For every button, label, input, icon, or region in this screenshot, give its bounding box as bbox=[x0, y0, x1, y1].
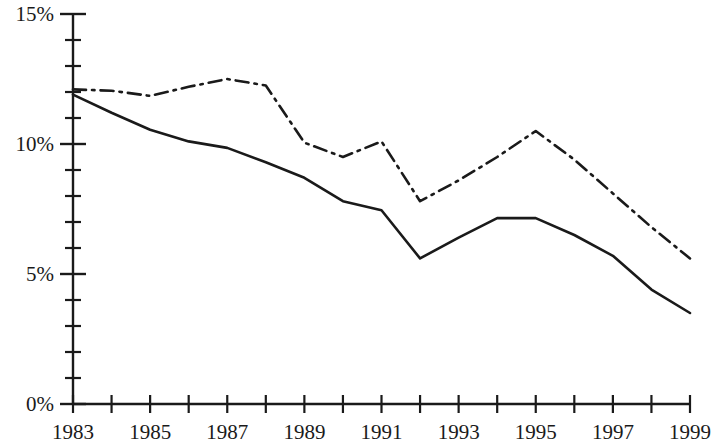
x-axis-tick-label: 1985 bbox=[129, 422, 171, 443]
line-chart: 0%5%10%15% 19831985198719891991199319951… bbox=[0, 0, 720, 446]
x-axis-tick-label: 1995 bbox=[515, 422, 557, 443]
x-axis-tick-label: 1999 bbox=[669, 422, 711, 443]
chart-series bbox=[73, 79, 690, 313]
x-axis-tick-label: 1997 bbox=[592, 422, 634, 443]
x-axis-tick-label: 1983 bbox=[52, 422, 94, 443]
x-axis-tick-label: 1993 bbox=[438, 422, 480, 443]
y-axis-tick-label: 0% bbox=[26, 394, 54, 415]
y-axis-tick-label: 5% bbox=[26, 264, 54, 285]
series-line-dash-dot-series bbox=[73, 79, 690, 258]
series-line-solid-series bbox=[73, 95, 690, 313]
x-axis-tick-label: 1987 bbox=[206, 422, 248, 443]
x-axis-tick-label: 1989 bbox=[283, 422, 325, 443]
y-axis-tick-label: 10% bbox=[16, 134, 55, 155]
y-axis-tick-label: 15% bbox=[16, 4, 55, 25]
chart-plot-area bbox=[0, 0, 720, 446]
chart-axes bbox=[60, 14, 690, 413]
x-axis-tick-label: 1991 bbox=[361, 422, 403, 443]
